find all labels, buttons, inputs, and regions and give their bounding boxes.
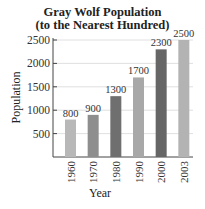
- bar-chart-plot: 5001000150020002500800196090019701300198…: [0, 0, 205, 209]
- y-axis-label: Population: [9, 68, 24, 128]
- bar: [110, 96, 121, 157]
- x-tick-label: 2003: [178, 161, 190, 184]
- y-tick-label: 500: [33, 128, 51, 140]
- bar: [65, 120, 76, 157]
- bar: [88, 115, 99, 157]
- data-label: 2500: [173, 28, 194, 39]
- x-tick-label: 1970: [87, 161, 99, 184]
- data-label: 2300: [151, 37, 172, 48]
- y-tick-label: 2000: [27, 57, 50, 69]
- y-tick-label: 1000: [27, 104, 50, 116]
- data-label: 800: [63, 108, 79, 119]
- bar: [178, 40, 189, 157]
- x-axis-label: Year: [70, 186, 130, 201]
- x-tick-label: 1980: [110, 161, 122, 184]
- data-label: 1700: [128, 65, 149, 76]
- x-tick-label: 2000: [155, 161, 167, 184]
- x-tick-label: 1990: [133, 161, 145, 184]
- x-tick-label: 1960: [65, 161, 77, 184]
- y-tick-label: 1500: [27, 81, 50, 93]
- data-label: 900: [85, 103, 101, 114]
- y-tick-label: 2500: [27, 34, 50, 46]
- bar: [156, 49, 167, 157]
- data-label: 1300: [105, 84, 126, 95]
- bar: [133, 77, 144, 157]
